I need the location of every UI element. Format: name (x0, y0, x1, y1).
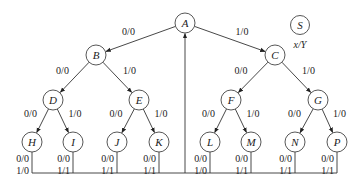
node-I: I (63, 132, 83, 152)
edge-D-I (57, 109, 68, 132)
return-label: 0/0 (194, 153, 207, 164)
node-label: H (27, 136, 37, 148)
edge-A-C (194, 26, 265, 51)
legend-caption: x/Y (293, 39, 308, 50)
node-label: E (135, 94, 143, 106)
return-label: 0/0 (143, 153, 156, 164)
node-C: C (265, 45, 285, 65)
return-label: 1/1 (57, 165, 70, 176)
edge-G-P (322, 109, 333, 132)
state-diagram: 0/01/00/01/00/01/00/01/00/01/00/01/00/01… (0, 0, 356, 185)
edge-label: 0/0 (56, 65, 69, 76)
edge-label: 0/0 (202, 108, 215, 119)
return-label: 0/0 (101, 153, 114, 164)
edge-label: 0/0 (110, 108, 123, 119)
node-label: F (227, 94, 235, 106)
edge-label: 1/0 (333, 108, 346, 119)
edge-label: 1/0 (123, 65, 136, 76)
node-D: D (43, 90, 63, 110)
return-label: 1/1 (321, 165, 334, 176)
edge-label: 1/0 (69, 108, 82, 119)
return-label: 1/1 (235, 165, 248, 176)
node-H: H (22, 132, 42, 152)
edge-label: 0/0 (24, 108, 37, 119)
edge-D-H (37, 109, 49, 133)
edge-label: 0/0 (288, 108, 301, 119)
edge-label: 1/0 (236, 26, 249, 37)
node-A: A (175, 13, 195, 33)
edge-label: 1/0 (247, 108, 260, 119)
node-L: L (200, 132, 220, 152)
return-label: 1/1 (101, 165, 114, 176)
node-K: K (149, 132, 169, 152)
node-label: B (93, 49, 100, 61)
edge-label: 1/0 (302, 65, 315, 76)
node-label: G (314, 94, 322, 106)
node-G: G (308, 90, 328, 110)
edge-E-J (122, 109, 134, 133)
return-label: 1/0 (194, 165, 207, 176)
edge-G-N (300, 109, 313, 133)
return-label: 1/1 (143, 165, 156, 176)
edge-label: 1/0 (155, 108, 168, 119)
edge-F-L (215, 109, 227, 133)
node-B: B (86, 45, 106, 65)
return-label: 1/0 (16, 165, 29, 176)
node-N: N (285, 132, 305, 152)
node-label: D (48, 94, 57, 106)
return-label: 1/1 (279, 165, 292, 176)
node-label: L (206, 136, 213, 148)
node-M: M (241, 132, 261, 152)
return-label: 0/0 (235, 153, 248, 164)
node-label: A (181, 17, 189, 29)
edge-F-M (235, 109, 246, 132)
return-label: 0/0 (16, 153, 29, 164)
node-F: F (221, 90, 241, 110)
legend-node-label: S (297, 19, 303, 31)
edge-label: 0/0 (122, 26, 135, 37)
edge-A-B (106, 26, 176, 51)
node-P: P (327, 132, 347, 152)
legend: S x/Y (291, 16, 310, 51)
edge-E-K (143, 109, 154, 132)
return-label: 0/0 (279, 153, 292, 164)
node-label: P (333, 136, 341, 148)
node-label: M (245, 136, 256, 148)
return-label: 0/0 (321, 153, 334, 164)
node-E: E (129, 90, 149, 110)
node-label: K (154, 136, 163, 148)
return-bus: 0/01/00/01/10/01/10/01/10/01/00/01/10/01… (16, 34, 337, 177)
return-label: 0/0 (57, 153, 70, 164)
node-label: N (290, 136, 299, 148)
node-J: J (107, 132, 127, 152)
node-label: C (271, 49, 279, 61)
edge-label: 0/0 (235, 65, 248, 76)
